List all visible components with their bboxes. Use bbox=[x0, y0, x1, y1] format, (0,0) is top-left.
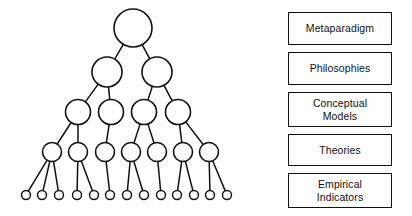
tree-nodes bbox=[22, 9, 232, 200]
tree-edge bbox=[77, 162, 78, 191]
tree-edge bbox=[164, 85, 172, 101]
tree-edge bbox=[134, 124, 140, 143]
tree-node-empirical-indicators[interactable] bbox=[38, 191, 47, 200]
tree-edge bbox=[180, 124, 182, 142]
level-label-theories: Theories bbox=[316, 144, 364, 157]
tree-node-theories[interactable] bbox=[174, 143, 193, 162]
tree-node-philosophies[interactable] bbox=[142, 57, 172, 87]
tree-node-theories[interactable] bbox=[148, 143, 167, 162]
tree-node-empirical-indicators[interactable] bbox=[55, 191, 64, 200]
tree-edge bbox=[209, 162, 210, 191]
tree-node-empirical-indicators[interactable] bbox=[123, 191, 132, 200]
tree-node-theories[interactable] bbox=[200, 143, 219, 162]
tree-diagram bbox=[0, 0, 270, 216]
level-label-philosophies: Philosophies bbox=[307, 62, 374, 75]
tree-node-theories[interactable] bbox=[43, 143, 62, 162]
tree-node-empirical-indicators[interactable] bbox=[190, 191, 199, 200]
tree-node-conceptual-models[interactable] bbox=[66, 100, 91, 125]
level-label-empirical-indicators: Empirical Indicators bbox=[314, 178, 367, 204]
tree-node-empirical-indicators[interactable] bbox=[73, 191, 82, 200]
tree-node-empirical-indicators[interactable] bbox=[22, 191, 31, 200]
level-box-metaparadigm[interactable]: Metaparadigm bbox=[288, 12, 392, 45]
tree-node-empirical-indicators[interactable] bbox=[140, 191, 149, 200]
level-label-column: Metaparadigm Philosophies Conceptual Mod… bbox=[288, 0, 394, 216]
tree-edge bbox=[185, 161, 193, 190]
tree-edge bbox=[106, 161, 109, 190]
tree-node-empirical-indicators[interactable] bbox=[206, 191, 215, 200]
level-box-conceptual-models[interactable]: Conceptual Models bbox=[288, 92, 392, 127]
tree-edge bbox=[127, 161, 130, 190]
tree-node-theories[interactable] bbox=[96, 143, 115, 162]
tree-edge bbox=[115, 44, 124, 59]
tree-edge bbox=[178, 161, 182, 190]
tree-node-empirical-indicators[interactable] bbox=[157, 191, 166, 200]
tree-node-conceptual-models[interactable] bbox=[99, 100, 124, 125]
tree-edge bbox=[81, 161, 92, 191]
tree-svg bbox=[0, 0, 270, 216]
tree-edge bbox=[85, 84, 98, 102]
tree-node-metaparadigm[interactable] bbox=[114, 9, 152, 47]
tree-edge bbox=[108, 87, 109, 100]
tree-edge bbox=[148, 124, 154, 143]
tree-node-empirical-indicators[interactable] bbox=[223, 191, 232, 200]
tree-node-theories[interactable] bbox=[122, 143, 141, 162]
tree-edge bbox=[57, 122, 71, 144]
level-box-theories[interactable]: Theories bbox=[288, 134, 392, 166]
tree-node-empirical-indicators[interactable] bbox=[90, 191, 99, 200]
level-label-metaparadigm: Metaparadigm bbox=[303, 22, 377, 35]
tree-node-conceptual-models[interactable] bbox=[166, 100, 191, 125]
hierarchy-figure: Metaparadigm Philosophies Conceptual Mod… bbox=[0, 0, 412, 216]
tree-node-conceptual-models[interactable] bbox=[132, 100, 157, 125]
tree-edge bbox=[186, 122, 204, 145]
tree-edge bbox=[54, 161, 59, 190]
tree-edge bbox=[213, 161, 226, 191]
tree-edge bbox=[134, 161, 143, 191]
tree-node-empirical-indicators[interactable] bbox=[173, 191, 182, 200]
level-label-conceptual-models: Conceptual Models bbox=[310, 97, 370, 123]
tree-node-empirical-indicators[interactable] bbox=[106, 191, 115, 200]
level-box-empirical-indicators[interactable]: Empirical Indicators bbox=[288, 173, 392, 208]
tree-node-theories[interactable] bbox=[69, 143, 88, 162]
level-box-philosophies[interactable]: Philosophies bbox=[288, 52, 392, 85]
tree-node-philosophies[interactable] bbox=[92, 57, 122, 87]
tree-edges bbox=[28, 44, 225, 191]
tree-edge bbox=[142, 45, 150, 59]
tree-edge bbox=[158, 161, 161, 190]
tree-edge bbox=[148, 86, 153, 100]
tree-edge bbox=[106, 124, 109, 142]
